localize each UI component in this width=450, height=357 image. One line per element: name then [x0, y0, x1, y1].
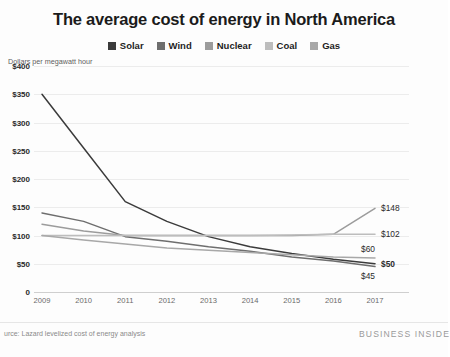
x-axis-tick-label: 2015	[283, 296, 300, 305]
x-axis-tick-label: 2017	[367, 296, 384, 305]
legend-label: Nuclear	[217, 40, 252, 51]
x-axis-tick-label: 2013	[200, 296, 217, 305]
legend-label: Gas	[322, 40, 340, 51]
y-axis-tick-label: $350	[0, 90, 30, 99]
y-axis-tick-label: 0	[0, 288, 30, 297]
end-label: $45	[361, 271, 375, 281]
legend-item-gas[interactable]: Gas	[310, 40, 340, 51]
brand-logo: BUSINESS INSIDE	[359, 329, 450, 339]
legend-swatch-icon	[108, 42, 116, 50]
x-axis-tick-label: 2010	[75, 296, 92, 305]
y-axis-tick-label: $150	[0, 203, 30, 212]
plot-area	[34, 66, 409, 292]
chart-legend: SolarWindNuclearCoalGas	[0, 40, 448, 51]
legend-item-solar[interactable]: Solar	[108, 40, 144, 51]
legend-label: Wind	[169, 40, 192, 51]
y-axis-tick-label: $100	[0, 231, 30, 240]
x-axis-tick-label: 2012	[158, 296, 175, 305]
y-axis-tick-label: $400	[0, 62, 30, 71]
x-axis-tick-label: 2014	[242, 296, 259, 305]
footer-divider	[0, 322, 448, 323]
legend-label: Coal	[277, 40, 298, 51]
legend-item-coal[interactable]: Coal	[265, 40, 298, 51]
y-axis-tick-label: $250	[0, 146, 30, 155]
legend-item-wind[interactable]: Wind	[157, 40, 192, 51]
chart-lines	[34, 66, 409, 292]
end-label: $60	[361, 244, 375, 254]
x-axis-tick-label: 2011	[117, 296, 133, 305]
legend-swatch-icon	[157, 42, 165, 50]
y-axis-tick-label: $200	[0, 175, 30, 184]
page-title: The average cost of energy in North Amer…	[0, 10, 448, 29]
legend-swatch-icon	[310, 42, 318, 50]
end-label: $148	[381, 203, 400, 213]
y-axis-tick-label: $50	[0, 259, 30, 268]
end-label: $102	[381, 229, 400, 239]
legend-swatch-icon	[205, 42, 213, 50]
source-note: urce: Lazard levelized cost of energy an…	[4, 330, 145, 337]
legend-item-nuclear[interactable]: Nuclear	[205, 40, 252, 51]
y-axis-tick-label: $300	[0, 118, 30, 127]
x-axis-tick-label: 2009	[34, 296, 51, 305]
series-line-nuclear	[42, 208, 375, 235]
legend-label: Solar	[120, 40, 144, 51]
x-axis-tick-label: 2016	[325, 296, 342, 305]
end-label: $50	[381, 259, 395, 269]
legend-swatch-icon	[265, 42, 273, 50]
series-line-solar	[42, 94, 375, 264]
gridline	[34, 292, 409, 293]
